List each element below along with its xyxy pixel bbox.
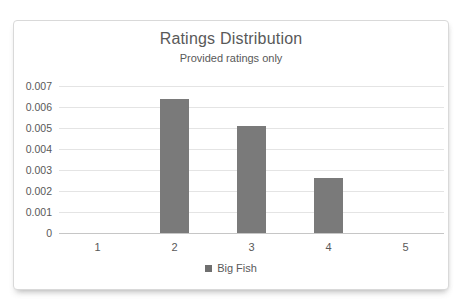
legend: Big Fish [14, 262, 448, 274]
bar-category-4 [314, 178, 343, 233]
y-tick-label: 0.007 [12, 81, 52, 92]
legend-label-big-fish: Big Fish [217, 262, 257, 274]
gridline [59, 107, 444, 108]
gridline [59, 86, 444, 87]
bar-category-2 [160, 99, 189, 233]
bar-category-3 [237, 126, 266, 233]
x-tick-label: 5 [367, 241, 444, 253]
chart-area[interactable]: Ratings Distribution Provided ratings on… [13, 20, 449, 290]
y-tick-label: 0 [12, 228, 52, 239]
x-tick-label: 2 [136, 241, 213, 253]
y-tick-label: 0.005 [12, 123, 52, 134]
y-tick-label: 0.006 [12, 102, 52, 113]
chart-title: Ratings Distribution [14, 30, 448, 48]
x-tick-label: 4 [290, 241, 367, 253]
y-tick-label: 0.004 [12, 144, 52, 155]
chart-subtitle: Provided ratings only [14, 52, 448, 64]
y-tick-label: 0.003 [12, 165, 52, 176]
legend-marker-big-fish [205, 265, 212, 272]
y-tick-label: 0.002 [12, 186, 52, 197]
y-tick-label: 0.001 [12, 207, 52, 218]
x-tick-label: 3 [213, 241, 290, 253]
x-tick-label: 1 [59, 241, 136, 253]
x-axis-line [59, 233, 444, 234]
